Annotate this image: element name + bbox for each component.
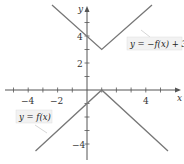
svg-text:y = f(x): y = f(x) xyxy=(18,112,51,122)
leader-line-top xyxy=(141,30,150,37)
svg-text:y = −f(x) + 3: y = −f(x) + 3 xyxy=(129,39,184,49)
leader-line-bottom xyxy=(35,125,47,133)
equation-label-bottom: y = f(x) xyxy=(16,110,52,123)
graph: y x −4 −2 4 4 2 −4 y = −f(x) + 3 y = f(x… xyxy=(0,0,184,164)
y-tick-label-2: 2 xyxy=(77,59,83,69)
y-axis xyxy=(85,6,90,160)
x-tick-label-neg2: −2 xyxy=(50,96,63,106)
x-tick-label-neg4: −4 xyxy=(21,96,35,106)
x-tick-label-4: 4 xyxy=(143,96,149,106)
equation-label-top: y = −f(x) + 3 xyxy=(127,37,184,50)
y-tick-label-neg4: −4 xyxy=(72,140,86,150)
y-axis-label: y xyxy=(77,4,84,14)
y-tick-label-4: 4 xyxy=(77,32,83,42)
x-axis-label: x xyxy=(177,93,182,103)
x-axis xyxy=(5,88,181,93)
